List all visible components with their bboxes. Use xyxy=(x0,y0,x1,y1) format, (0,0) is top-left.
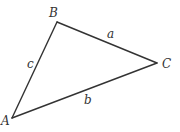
vertex-label-c: C xyxy=(162,57,171,71)
side-label-b: b xyxy=(84,93,92,107)
vertex-label-a: A xyxy=(0,114,10,128)
triangle-diagram: A B C a b c xyxy=(0,0,180,132)
vertex-label-b: B xyxy=(48,6,58,20)
side-label-a: a xyxy=(107,27,114,41)
side-label-c: c xyxy=(27,57,34,71)
